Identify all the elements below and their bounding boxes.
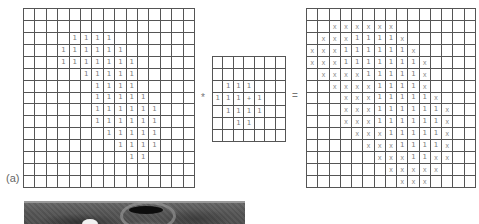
grid-cell xyxy=(172,81,183,93)
grid-cell xyxy=(352,9,363,21)
grid-cell xyxy=(408,33,419,45)
grid-cell: 1 xyxy=(92,69,103,81)
grid-cell xyxy=(184,152,195,164)
grid-cell xyxy=(24,57,35,69)
grid-cell xyxy=(161,128,172,140)
grid-cell: 1 xyxy=(58,45,69,57)
grid-cell: 1 xyxy=(115,81,126,93)
grid-cell: 1 xyxy=(58,57,69,69)
grid-cell: x xyxy=(330,81,341,93)
grid-cell: x xyxy=(352,69,363,81)
grid-cell xyxy=(307,69,318,81)
grid-cell: 1 xyxy=(375,81,386,93)
grid-cell: 1 xyxy=(386,69,397,81)
grid-cell: + xyxy=(244,93,254,105)
grid-cell: x xyxy=(363,93,374,105)
grid-cell xyxy=(35,81,46,93)
grid-cell xyxy=(318,152,329,164)
grid-cell xyxy=(465,57,476,69)
grid-cell xyxy=(58,164,69,176)
grid-cell xyxy=(341,128,352,140)
grid-cell xyxy=(172,93,183,105)
grid-cell xyxy=(184,140,195,152)
grid-cell xyxy=(184,176,195,188)
grid-cell xyxy=(92,21,103,33)
grid-cell xyxy=(213,81,223,93)
grid-cell: 1 xyxy=(375,104,386,116)
grid-cell xyxy=(363,164,374,176)
grid-cell xyxy=(318,93,329,105)
grid-cell xyxy=(47,81,58,93)
grid-cell xyxy=(234,69,244,81)
grid-cell xyxy=(255,130,265,142)
grid-cell xyxy=(92,9,103,21)
grid-cell xyxy=(307,140,318,152)
grid-cell xyxy=(465,116,476,128)
grid-cell xyxy=(453,116,464,128)
grid-cell xyxy=(330,104,341,116)
grid-cell xyxy=(149,9,160,21)
grid-cell xyxy=(161,69,172,81)
grid-cell xyxy=(453,57,464,69)
grid-cell xyxy=(172,128,183,140)
grid-cell: 1 xyxy=(408,81,419,93)
grid-cell: x xyxy=(386,164,397,176)
grid-cell: 1 xyxy=(104,116,115,128)
grid-cell xyxy=(352,140,363,152)
grid-cell xyxy=(138,33,149,45)
grid-cell xyxy=(47,57,58,69)
grid-cell xyxy=(172,164,183,176)
grid-cell xyxy=(161,176,172,188)
grid-cell xyxy=(70,21,81,33)
grid-cell xyxy=(341,176,352,188)
grid-cell: 1 xyxy=(92,81,103,93)
grid-cell xyxy=(70,116,81,128)
grid-cell xyxy=(408,9,419,21)
grid-cell xyxy=(161,104,172,116)
grid-cell xyxy=(276,93,286,105)
grid-cell: 1 xyxy=(104,45,115,57)
grid-cell xyxy=(92,152,103,164)
grid-cell xyxy=(138,9,149,21)
grid-cell: 1 xyxy=(92,116,103,128)
grid-cell xyxy=(431,21,442,33)
grid-cell: 1 xyxy=(431,128,442,140)
grid-cell: 1 xyxy=(420,116,431,128)
grid-cell xyxy=(81,9,92,21)
equals-sign: = xyxy=(292,90,298,101)
grid-cell xyxy=(255,69,265,81)
grid-cell xyxy=(161,116,172,128)
grid-cell: 1 xyxy=(375,93,386,105)
grid-cell: x xyxy=(341,116,352,128)
grid-cell xyxy=(35,164,46,176)
grid-cell: x xyxy=(307,57,318,69)
grid-cell: 1 xyxy=(138,116,149,128)
grid-cell: 1 xyxy=(363,57,374,69)
grid-cell xyxy=(453,128,464,140)
image-bright-spot xyxy=(82,219,98,224)
grid-cell: x xyxy=(397,152,408,164)
grid-cell xyxy=(172,45,183,57)
grid-cell xyxy=(58,104,69,116)
grid-cell xyxy=(330,176,341,188)
grid-cell: 1 xyxy=(386,45,397,57)
grid-cell xyxy=(149,21,160,33)
grid-cell: x xyxy=(397,33,408,45)
grid-cell xyxy=(352,164,363,176)
grid-cell xyxy=(35,104,46,116)
grid-cell xyxy=(58,33,69,45)
grid-cell xyxy=(35,69,46,81)
grid-cell: 1 xyxy=(397,81,408,93)
grid-cell: 1 xyxy=(149,116,160,128)
grid-cell: x xyxy=(375,128,386,140)
grid-cell: x xyxy=(375,21,386,33)
grid-cell xyxy=(172,176,183,188)
grid-cell xyxy=(442,164,453,176)
grid-cell: x xyxy=(420,69,431,81)
grid-cell: x xyxy=(318,33,329,45)
grid-cell: 1 xyxy=(341,57,352,69)
grid-cell: 1 xyxy=(127,152,138,164)
grid-cell xyxy=(318,21,329,33)
grid-cell xyxy=(223,57,233,69)
grid-cell xyxy=(307,164,318,176)
